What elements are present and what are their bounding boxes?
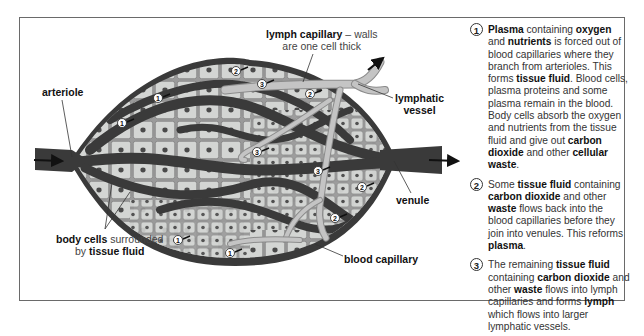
note-text: Some tissue fluid containing carbon diox…: [488, 179, 623, 251]
svg-text:3: 3: [316, 168, 320, 175]
label-body-cells: body cells surrounded by tissue fluid: [56, 233, 163, 257]
label-lymphatic-vessel: lymphatic vessel: [395, 92, 444, 116]
note-text: The remaining tissue fluid containing ca…: [488, 259, 630, 331]
label-blood-capillary: blood capillary: [344, 253, 418, 265]
svg-text:2: 2: [234, 68, 238, 75]
svg-text:3: 3: [260, 81, 264, 88]
label-arteriole: arteriole: [42, 86, 83, 98]
svg-text:1: 1: [156, 95, 160, 102]
label-venule: venule: [396, 194, 429, 206]
step-number-badge: 3: [470, 258, 483, 271]
svg-text:2: 2: [360, 184, 364, 191]
label-lymph-capillary: lymph capillary – walls are one cell thi…: [266, 28, 377, 52]
svg-text:3: 3: [255, 149, 259, 156]
note-2: 2 Some tissue fluid containing carbon di…: [470, 179, 630, 253]
note-text: Plasma containing oxygen and nutrients i…: [488, 24, 628, 170]
step-number-badge: 1: [470, 23, 483, 36]
svg-text:1: 1: [176, 237, 180, 244]
svg-text:1: 1: [120, 120, 124, 127]
explanation-notes: 1 Plasma containing oxygen and nutrients…: [470, 24, 630, 336]
step-number-badge: 2: [470, 178, 483, 191]
note-1: 1 Plasma containing oxygen and nutrients…: [470, 24, 630, 172]
svg-text:1: 1: [228, 250, 232, 257]
svg-text:2: 2: [308, 91, 312, 98]
note-3: 3 The remaining tissue fluid containing …: [470, 259, 630, 333]
svg-text:2: 2: [333, 215, 337, 222]
